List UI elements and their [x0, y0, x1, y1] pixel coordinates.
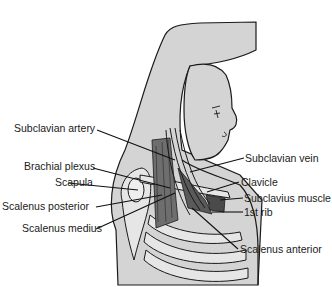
label-first-rib: 1st rib: [244, 206, 273, 218]
head-outline: [184, 64, 237, 160]
diagram-canvas: Subclavian artery Brachial plexus Scapul…: [0, 0, 332, 287]
label-brachial-plexus: Brachial plexus: [24, 160, 95, 172]
label-scapula: Scapula: [55, 176, 93, 188]
label-subclavian-vein: Subclavian vein: [245, 152, 319, 164]
label-scalenus-medius: Scalenus medius: [22, 222, 102, 234]
label-scalenus-posterior: Scalenus posterior: [2, 200, 89, 212]
label-scalenus-anterior: Scalenus anterior: [240, 243, 322, 255]
label-subclavian-artery: Subclavian artery: [14, 122, 95, 134]
label-subclavius-muscle: Subclavius muscle: [244, 192, 331, 204]
label-clavicle: Clavicle: [241, 176, 278, 188]
